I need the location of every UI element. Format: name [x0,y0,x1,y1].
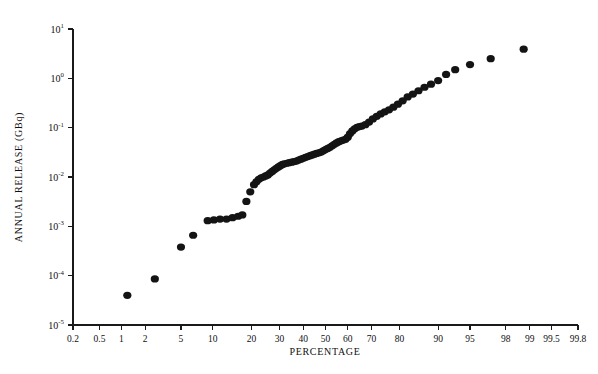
x-tick-label: 98 [501,334,511,344]
y-axis-ticks: 10110010-110-210-310-410-5 [48,22,73,331]
x-tick-label: 99 [525,334,535,344]
x-tick-label: 90 [433,334,443,344]
x-axis-title: PERCENTAGE [289,346,360,357]
x-tick-label: 10 [208,334,218,344]
y-tick-label: 100 [51,71,65,84]
y-tick-label: 10-2 [48,170,64,183]
x-tick-label: 40 [298,334,308,344]
y-tick-label: 10-4 [48,269,64,282]
x-tick-label: 0.2 [67,334,79,344]
data-point [177,243,185,250]
data-point [466,61,474,68]
data-points [123,46,528,299]
axes [73,29,578,325]
data-point [520,46,528,53]
x-tick-label: 1 [119,334,124,344]
data-point [123,292,131,299]
data-point [238,211,246,218]
x-tick-label: 20 [247,334,257,344]
y-tick-label: 101 [51,22,64,35]
x-tick-label: 30 [275,334,285,344]
data-point [434,77,442,84]
data-point [442,71,450,78]
x-tick-label: 5 [179,334,184,344]
chart-figure: 0.20.512510203040506070809095989999.599.… [0,0,598,374]
x-tick-label: 95 [465,334,475,344]
x-tick-label: 50 [321,334,331,344]
x-tick-label: 70 [367,334,377,344]
data-point [151,275,159,282]
x-axis-ticks: 0.20.512510203040506070809095989999.599.… [67,325,587,344]
x-tick-label: 80 [395,334,405,344]
x-tick-label: 2 [143,334,148,344]
data-point [189,232,197,239]
probability-plot-svg: 0.20.512510203040506070809095989999.599.… [0,0,598,374]
x-tick-label: 99.5 [543,334,560,344]
y-tick-label: 10-1 [48,121,64,134]
x-tick-label: 0.5 [94,334,106,344]
y-tick-label: 10-3 [48,219,64,232]
y-tick-label: 10-5 [48,318,64,331]
y-axis-title: ANNUAL RELEASE (GBq) [13,112,25,242]
x-tick-label: 99.8 [570,334,587,344]
data-point [242,198,250,205]
axis-spines [73,29,578,325]
data-point [427,81,435,88]
data-point [487,55,495,62]
x-tick-label: 60 [343,334,353,344]
data-point [246,188,254,195]
data-point [451,66,459,73]
